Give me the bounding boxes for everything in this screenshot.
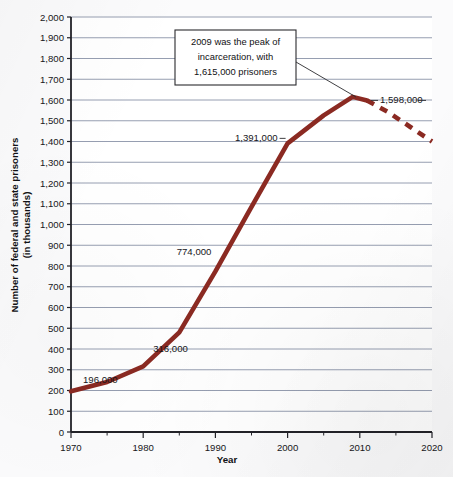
y-tick-label: 400 — [48, 344, 64, 355]
y-tick-label: 1,700 — [40, 74, 64, 85]
y-tick-label: 200 — [48, 385, 64, 396]
y-tick-label: 1,000 — [40, 219, 64, 230]
data-point-label: 774,000 — [177, 246, 212, 257]
data-point-label: 1,391,000 — [235, 132, 278, 143]
y-tick-label: 100 — [48, 406, 64, 417]
y-tick-label: 2,000 — [40, 12, 64, 23]
y-tick-label: 1,300 — [40, 157, 64, 168]
peak-callout-line-3: 1,615,000 prisoners — [194, 66, 277, 77]
y-tick-label: 1,900 — [40, 32, 64, 43]
y-axis-title-line1: Number of federal and state prisoners — [9, 138, 20, 313]
y-tick-label: 1,600 — [40, 95, 64, 106]
peak-callout-line-2: incarceration, with — [198, 51, 274, 62]
data-point-label: 316,000 — [153, 343, 188, 354]
x-axis-title: Year — [217, 454, 238, 465]
x-tick-label: 2020 — [421, 442, 442, 453]
y-tick-label: 0 — [59, 427, 64, 438]
x-tick-label: 2010 — [349, 442, 370, 453]
y-tick-label: 1,500 — [40, 115, 64, 126]
y-axis-title-line2: (in thousands) — [21, 192, 32, 259]
x-tick-label: 2000 — [277, 442, 298, 453]
y-tick-label: 900 — [48, 240, 64, 251]
y-tick-label: 1,100 — [40, 198, 64, 209]
data-point-label: 1,598,000 — [380, 94, 423, 105]
x-tick-label: 1980 — [133, 442, 154, 453]
data-point-label: 196,000 — [83, 374, 118, 385]
peak-callout-line-1: 2009 was the peak of — [191, 36, 281, 47]
y-tick-label: 1,400 — [40, 136, 64, 147]
y-axis-ticks: 01002003004005006007008009001,0001,1001,… — [40, 12, 71, 438]
y-tick-label: 500 — [48, 323, 64, 334]
y-tick-label: 300 — [48, 364, 64, 375]
x-axis-ticks: 197019801990200020102020 — [60, 432, 442, 453]
y-tick-label: 700 — [48, 281, 64, 292]
y-tick-label: 1,800 — [40, 53, 64, 64]
y-tick-label: 1,200 — [40, 178, 64, 189]
y-tick-label: 800 — [48, 261, 64, 272]
x-tick-label: 1970 — [60, 442, 81, 453]
chart-svg: 01002003004005006007008009001,0001,1001,… — [0, 0, 453, 477]
x-tick-label: 1990 — [205, 442, 226, 453]
y-tick-label: 600 — [48, 302, 64, 313]
prison-population-line-chart: 01002003004005006007008009001,0001,1001,… — [0, 0, 453, 477]
